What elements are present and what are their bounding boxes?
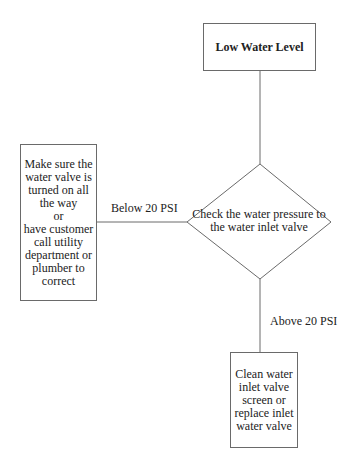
left-action-node: Make sure the water valve is turned on a…: [20, 144, 97, 301]
decision-node-text: Check the water pressure to the water in…: [187, 208, 331, 234]
bottom-action-node: Clean water inlet valve screen or replac…: [230, 352, 298, 448]
left-action-text: Make sure the water valve is turned on a…: [24, 158, 94, 288]
start-node-text: Low Water Level: [215, 41, 303, 54]
start-node: Low Water Level: [203, 23, 316, 71]
bottom-action-text: Clean water inlet valve screen or replac…: [235, 368, 294, 433]
edge-label-above: Above 20 PSI: [270, 314, 337, 329]
edge-label-below: Below 20 PSI: [111, 201, 178, 216]
